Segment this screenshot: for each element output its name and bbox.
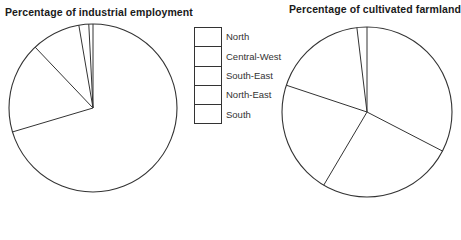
pie-industrial-employment — [9, 24, 177, 192]
legend-label: South-East — [226, 70, 273, 81]
legend-label: Central-West — [226, 51, 281, 62]
legend-swatch — [194, 85, 222, 104]
legend-swatch — [194, 104, 222, 124]
legend-item-central-west: Central-West — [194, 46, 281, 65]
legend-swatch — [194, 46, 222, 65]
legend-item-north: North — [194, 27, 281, 46]
legend-item-north-east: North-East — [194, 85, 281, 104]
legend: North Central-West South-East North-East… — [194, 27, 281, 124]
legend-swatch — [194, 66, 222, 85]
legend-item-south: South — [194, 105, 281, 124]
legend-label: North-East — [226, 89, 271, 100]
legend-swatch — [194, 27, 222, 46]
legend-item-south-east: South-East — [194, 66, 281, 85]
pie-cultivated-farmland — [282, 27, 452, 197]
legend-label: North — [226, 31, 249, 42]
legend-label: South — [226, 109, 251, 120]
